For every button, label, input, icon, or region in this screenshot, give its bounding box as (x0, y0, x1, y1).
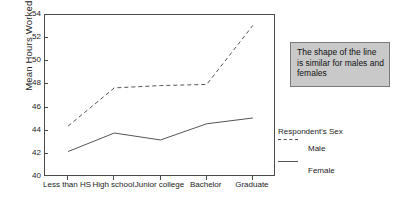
y-axis-tick-mark (44, 14, 48, 15)
y-axis-tick-mark (44, 60, 48, 61)
x-axis-tick-label: Junior college (135, 180, 184, 189)
y-axis-tick-label: 44 (19, 126, 41, 134)
x-axis-tick-label: High school (92, 180, 134, 189)
y-axis-tick-label: 46 (19, 103, 41, 111)
legend-swatch-solid-icon (278, 161, 298, 162)
series-lines (45, 15, 276, 177)
x-axis-tick-mark (206, 176, 207, 180)
annotation-text: The shape of the line is similar for mal… (297, 47, 384, 78)
x-axis-tick-mark (67, 176, 68, 180)
y-axis-tick-label: 48 (19, 79, 41, 87)
annotation-callout: The shape of the line is similar for mal… (290, 42, 390, 87)
legend-item-male: Male (278, 136, 396, 158)
series-line-male (68, 25, 253, 126)
x-axis-tick-mark (160, 176, 161, 180)
legend-title: Respondent's Sex (278, 127, 396, 136)
x-axis-tick-label: Bachelor (190, 180, 222, 189)
y-axis-tick-label: 42 (19, 149, 41, 157)
x-axis-tick-label: Graduate (235, 180, 268, 189)
legend-swatch-dashed-icon (278, 139, 298, 140)
x-axis-tick-mark (252, 176, 253, 180)
series-line-female (68, 118, 253, 152)
y-axis-tick-mark (44, 37, 48, 38)
y-axis-tick-label: 50 (19, 56, 41, 64)
plot-area (44, 14, 275, 176)
legend-label-female: Female (308, 166, 335, 175)
y-axis-tick-label: 40 (19, 172, 41, 180)
x-axis-tick-label: Less than HS (43, 180, 91, 189)
y-axis-tick-label: 52 (19, 33, 41, 41)
y-axis-tick-mark (44, 130, 48, 131)
y-axis-tick-mark (44, 153, 48, 154)
y-axis-tick-mark (44, 83, 48, 84)
y-axis-tick-mark (44, 107, 48, 108)
x-axis-tick-mark (113, 176, 114, 180)
legend: Respondent's Sex Male Female (278, 127, 396, 180)
legend-item-female: Female (278, 158, 396, 180)
legend-label-male: Male (308, 144, 325, 153)
y-axis-tick-label: 54 (19, 10, 41, 18)
line-chart: Mean Hours Worked Last Week 404244464850… (0, 0, 399, 203)
